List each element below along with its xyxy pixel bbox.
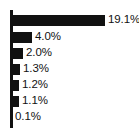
bar-row: 1.2%: [13, 77, 48, 93]
bar-value-label: 4.0%: [35, 31, 61, 43]
bar-segment: [13, 32, 32, 43]
bar-row: 0.1%: [13, 109, 41, 125]
bar-row: 19.1%: [13, 12, 139, 28]
bar-value-label: 1.2%: [22, 79, 48, 91]
bar-value-label: 19.1%: [108, 14, 139, 26]
bar-segment: [13, 48, 23, 59]
bar-segment: [13, 96, 19, 107]
bar-value-label: 0.1%: [15, 111, 41, 123]
bar-value-label: 1.3%: [23, 63, 49, 75]
bar-segment: [13, 15, 105, 26]
bar-row: 4.0%: [13, 29, 61, 45]
bar-value-label: 2.0%: [26, 47, 52, 59]
bar-row: 1.1%: [13, 93, 48, 109]
bar-segment: [13, 64, 20, 75]
bar-segment: [13, 80, 19, 91]
bar-row: 2.0%: [13, 45, 52, 61]
horizontal-bar-chart: 19.1% 4.0% 2.0% 1.3% 1.2% 1.1% 0.1%: [0, 0, 139, 131]
plot-area: 19.1% 4.0% 2.0% 1.3% 1.2% 1.1% 0.1%: [0, 0, 139, 131]
bar-value-label: 1.1%: [22, 95, 48, 107]
bar-row: 1.3%: [13, 61, 49, 77]
